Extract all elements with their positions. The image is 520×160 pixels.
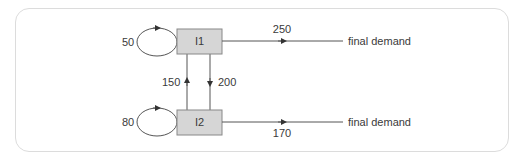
- flow-i1-final-demand: 250 final demand: [222, 23, 411, 47]
- flow-i2-final-demand: 170 final demand: [222, 116, 411, 139]
- flow-i1-final-demand-value: 250: [273, 23, 291, 35]
- flow-i2-final-demand-value: 170: [273, 127, 291, 139]
- self-loop-i1: 50: [122, 28, 177, 56]
- node-i1-label: I1: [195, 35, 204, 47]
- node-i1: I1: [177, 29, 222, 54]
- self-loop-i2-value: 80: [122, 116, 134, 128]
- flow-diagram: 50 80 150 200 I1 I2 250 final demand 1: [0, 0, 520, 160]
- flow-i2-to-i1: 150: [162, 54, 187, 110]
- self-loop-i2: 80: [122, 108, 177, 136]
- flow-i1-to-i2-value: 200: [218, 76, 236, 88]
- node-i2-label: I2: [195, 116, 204, 128]
- final-demand-label-2: final demand: [348, 116, 411, 128]
- node-i2: I2: [177, 110, 222, 135]
- self-loop-i1-value: 50: [122, 36, 134, 48]
- flow-i2-to-i1-value: 150: [162, 76, 180, 88]
- flow-i1-to-i2: 200: [210, 54, 236, 110]
- final-demand-label-1: final demand: [348, 35, 411, 47]
